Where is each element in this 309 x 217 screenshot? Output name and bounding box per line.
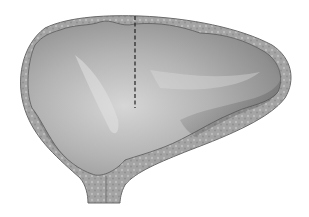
illustration-canvas bbox=[0, 0, 309, 217]
bladder-illustration bbox=[0, 0, 309, 217]
